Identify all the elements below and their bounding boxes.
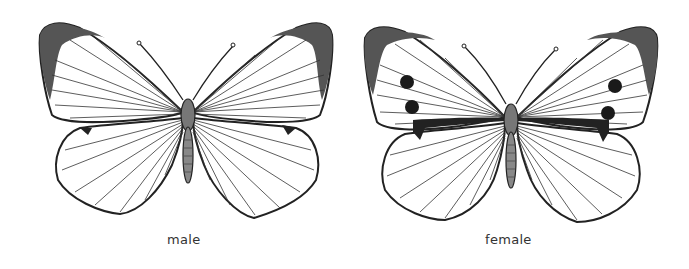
male-butterfly-figure: male	[0, 0, 345, 269]
female-butterfly-figure: female	[345, 0, 689, 269]
male-butterfly-illustration	[0, 0, 345, 269]
female-caption: female	[485, 232, 532, 247]
male-caption: male	[167, 232, 200, 247]
abdomen	[183, 127, 193, 183]
right-upper-spot	[608, 79, 622, 93]
left-lower-spot	[405, 100, 419, 114]
female-butterfly-illustration	[345, 0, 689, 269]
left-upper-spot	[400, 75, 414, 89]
thorax	[181, 99, 195, 131]
right-lower-spot	[601, 106, 615, 120]
